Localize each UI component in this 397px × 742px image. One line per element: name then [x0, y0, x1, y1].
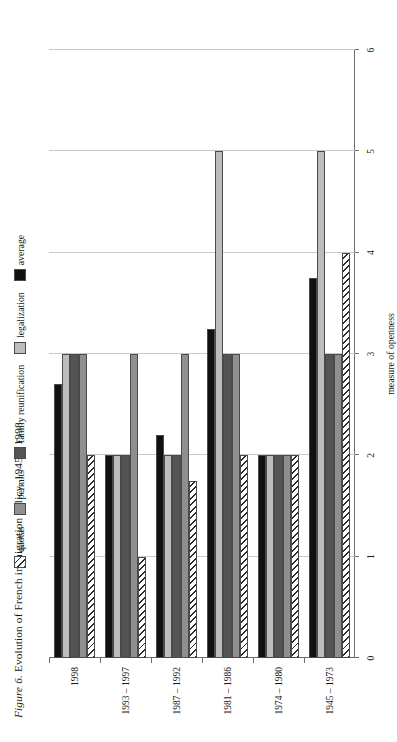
category-tick — [202, 658, 203, 663]
bar-family — [274, 455, 282, 658]
figure-number: Figure 6. — [12, 675, 24, 718]
bar-quotas — [138, 557, 146, 658]
bar-family — [172, 455, 180, 658]
bar-quotas — [189, 481, 197, 658]
value-tick-label: 6 — [366, 48, 376, 53]
legend-item-family: family reunification — [14, 365, 26, 459]
bar-family — [325, 354, 333, 658]
bar-average — [309, 278, 317, 658]
value-tick-label: 0 — [366, 656, 376, 661]
bar-legalization — [317, 151, 325, 658]
value-tick-2 — [355, 454, 359, 455]
bar-permits — [79, 354, 87, 658]
bar-legalization — [113, 455, 121, 658]
legend-label: legalization — [15, 292, 26, 338]
legend-item-quotas: quotas — [14, 526, 26, 568]
value-tick-6 — [355, 49, 359, 50]
value-tick-5 — [355, 150, 359, 151]
legend-item-average: average — [14, 235, 26, 281]
category-label: 1945 – 1973 — [325, 667, 335, 715]
bar-permits — [283, 455, 291, 658]
bar-average — [54, 384, 62, 658]
bar-average — [156, 435, 164, 658]
value-tick-4 — [355, 252, 359, 253]
bar-permits — [334, 354, 342, 658]
bar-family — [121, 455, 129, 658]
value-tick-label: 2 — [366, 453, 376, 458]
category-tick — [100, 658, 101, 663]
legend-swatch-family-icon — [14, 447, 26, 459]
plot-area: 0123456 1945 – 19731974 – 19801981 – 198… — [49, 50, 355, 658]
legend-swatch-average-icon — [14, 269, 26, 281]
category-tick — [304, 658, 305, 663]
bar-average — [105, 455, 113, 658]
value-tick-label: 3 — [366, 352, 376, 357]
bar-permits — [232, 354, 240, 658]
bar-quotas — [291, 455, 299, 658]
bar-legalization — [164, 455, 172, 658]
value-tick-1 — [355, 556, 359, 557]
legend-swatch-legalization-icon — [14, 342, 26, 354]
bar-legalization — [266, 455, 274, 658]
category-label: 1981 – 1986 — [223, 667, 233, 715]
category-label: 1998 — [70, 667, 80, 686]
category-label: 1987 – 1992 — [172, 667, 182, 715]
value-tick-label: 1 — [366, 554, 376, 559]
bar-family — [70, 354, 78, 658]
gridline-4 — [49, 252, 355, 253]
gridline-6 — [49, 49, 355, 50]
bar-legalization — [215, 151, 223, 658]
bar-family — [223, 354, 231, 658]
category-tick — [49, 658, 50, 663]
category-tick — [253, 658, 254, 663]
value-axis-title: measure of openness — [385, 50, 396, 658]
gridline-5 — [49, 150, 355, 151]
legend-label: family reunification — [15, 365, 26, 443]
legend-label: average — [15, 235, 26, 265]
bar-quotas — [240, 455, 248, 658]
value-tick-0 — [355, 657, 359, 658]
legend-item-permits: permits — [14, 470, 26, 515]
legend-label: permits — [15, 470, 26, 499]
bar-quotas — [342, 253, 350, 658]
bar-permits — [181, 354, 189, 658]
bar-permits — [130, 354, 138, 658]
value-tick-3 — [355, 353, 359, 354]
bar-average — [207, 329, 215, 658]
legend-swatch-permits-icon — [14, 503, 26, 515]
figure-canvas: Figure 6. Evolution of French immigratio… — [0, 0, 397, 742]
category-tick — [151, 658, 152, 663]
legend-swatch-quotas-icon — [14, 556, 26, 568]
value-tick-label: 4 — [366, 250, 376, 255]
value-axis-line — [354, 50, 355, 658]
legend-item-legalization: legalization — [14, 292, 26, 354]
category-label: 1974 – 1980 — [274, 667, 284, 715]
value-tick-label: 5 — [366, 149, 376, 154]
bar-legalization — [62, 354, 70, 658]
category-label: 1993 – 1997 — [121, 667, 131, 715]
chart-legend: quotaspermitsfamily reunificationlegaliz… — [14, 224, 26, 568]
bar-average — [258, 455, 266, 658]
legend-label: quotas — [15, 526, 26, 552]
bar-quotas — [87, 455, 95, 658]
